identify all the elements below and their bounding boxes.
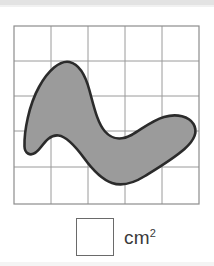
worksheet-page: cm2 bbox=[0, 0, 214, 266]
unit-label: cm2 bbox=[124, 228, 156, 247]
answer-row: cm2 bbox=[76, 216, 196, 258]
unit-label-exponent: 2 bbox=[150, 226, 156, 238]
answer-input-box[interactable] bbox=[76, 218, 114, 256]
unit-label-base: cm bbox=[124, 227, 150, 248]
